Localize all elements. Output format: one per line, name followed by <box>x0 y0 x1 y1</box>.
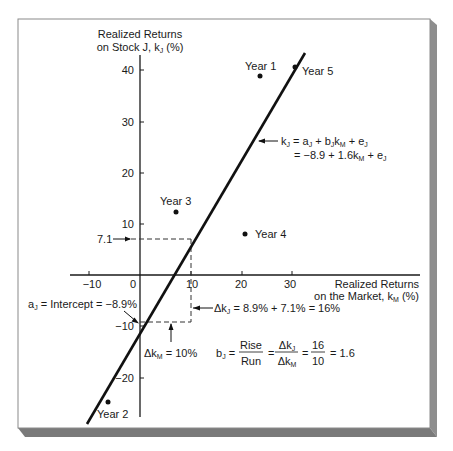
svg-text:Rise: Rise <box>240 339 262 351</box>
svg-text:Year 5: Year 5 <box>302 65 333 77</box>
svg-text:−10: −10 <box>115 320 134 332</box>
svg-text:10: 10 <box>122 218 134 230</box>
point-year2 <box>106 400 111 405</box>
svg-text:=: = <box>302 347 308 359</box>
svg-text:Run: Run <box>241 355 261 367</box>
svg-text:16: 16 <box>312 339 324 351</box>
delta-km-note: ΔkM = 10% <box>144 347 197 360</box>
point-year5 <box>293 65 298 70</box>
svg-text:20: 20 <box>235 278 247 290</box>
svg-text:Year 2: Year 2 <box>97 408 128 420</box>
y-axis-label-line1: Realized Returns <box>98 28 183 40</box>
svg-text:=: = <box>268 347 274 359</box>
point-year4 <box>243 232 248 237</box>
characteristic-line-chart: Realized Returns on Stock J, kJ (%) 40 3… <box>0 0 453 451</box>
svg-text:bJ =: bJ = <box>216 347 235 360</box>
point-year1 <box>258 74 263 79</box>
svg-text:Year 4: Year 4 <box>255 228 286 240</box>
svg-text:−20: −20 <box>115 372 134 384</box>
svg-text:30: 30 <box>284 278 296 290</box>
equation-line1: kJ = aJ + bJkM + eJ <box>281 135 368 148</box>
svg-text:20: 20 <box>122 167 134 179</box>
svg-text:40: 40 <box>122 64 134 76</box>
intercept-note: aJ = Intercept = −8.9% <box>28 298 137 311</box>
svg-text:−10: −10 <box>83 278 102 290</box>
svg-text:Year 3: Year 3 <box>160 195 191 207</box>
svg-text:= 1.6: = 1.6 <box>330 347 355 359</box>
svg-text:30: 30 <box>122 116 134 128</box>
x-axis-label-line1: Realized Returns <box>335 278 420 290</box>
svg-text:10: 10 <box>186 278 198 290</box>
delta-kj-note: ΔkJ = 8.9% + 7.1% = 16% <box>214 302 340 315</box>
y-axis-label-line2: on Stock J, kJ (%) <box>97 41 184 54</box>
svg-text:10: 10 <box>312 355 324 367</box>
chart-frame <box>18 19 430 428</box>
svg-text:0: 0 <box>130 278 136 290</box>
equation-line2: = −8.9 + 1.6kM + eJ <box>294 149 387 162</box>
point-year3 <box>174 210 179 215</box>
marker-71-label: 7.1 <box>97 233 112 245</box>
svg-text:Year 1: Year 1 <box>245 60 276 72</box>
